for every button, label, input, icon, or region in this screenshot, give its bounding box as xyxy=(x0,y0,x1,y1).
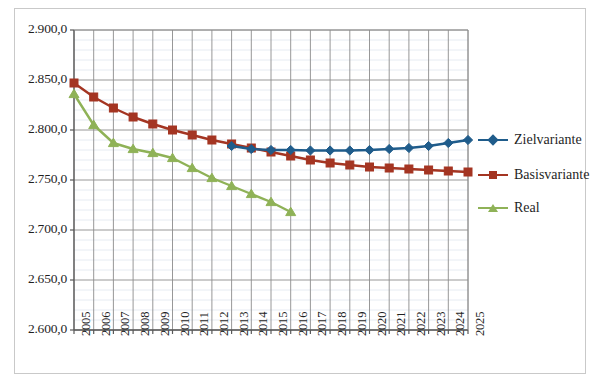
y-axis-tick-label: 2.600,0 xyxy=(5,321,67,337)
x-axis-tick-label: 2011 xyxy=(197,312,212,336)
data-point-basisvariante-2006 xyxy=(90,93,98,101)
legend-item-real[interactable]: Real xyxy=(478,200,540,216)
x-axis-tick-label: 2024 xyxy=(453,312,468,336)
data-point-basisvariante-2022 xyxy=(405,165,413,173)
data-point-basisvariante-2023 xyxy=(425,166,433,174)
legend-swatch-zielvariante xyxy=(478,134,508,146)
data-point-basisvariante-2009 xyxy=(149,120,157,128)
legend-marker-diamond-icon xyxy=(487,134,498,145)
data-point-basisvariante-2010 xyxy=(169,126,177,134)
x-axis-tick-label: 2012 xyxy=(217,312,232,336)
y-axis-tick-label: 2.650,0 xyxy=(5,271,67,287)
data-point-basisvariante-2007 xyxy=(109,104,117,112)
x-axis-tick-label: 2007 xyxy=(118,312,133,336)
legend-item-zielvariante[interactable]: Zielvariante xyxy=(478,132,582,148)
x-axis-tick-label: 2023 xyxy=(434,312,449,336)
legend-marker-square-icon xyxy=(489,171,497,179)
legend-item-basisvariante[interactable]: Basisvariante xyxy=(478,167,589,183)
data-point-basisvariante-2005 xyxy=(70,79,78,87)
x-axis-tick-label: 2021 xyxy=(394,312,409,336)
data-point-basisvariante-2025 xyxy=(464,168,472,176)
x-axis-tick-label: 2014 xyxy=(256,312,271,336)
legend-label: Basisvariante xyxy=(514,167,589,183)
x-axis-tick-label: 2020 xyxy=(375,312,390,336)
x-axis-tick-label: 2025 xyxy=(473,312,488,336)
x-axis-tick-label: 2022 xyxy=(414,312,429,336)
legend-swatch-real xyxy=(478,202,508,214)
x-axis-tick-label: 2016 xyxy=(296,312,311,336)
y-axis-tick-label: 2.700,0 xyxy=(5,221,67,237)
data-point-basisvariante-2019 xyxy=(346,161,354,169)
line-chart: 2.600,02.650,02.700,02.750,02.800,02.850… xyxy=(0,0,601,390)
y-axis-tick-label: 2.850,0 xyxy=(5,71,67,87)
x-axis-tick-label: 2015 xyxy=(276,312,291,336)
x-axis-tick-label: 2006 xyxy=(99,312,114,336)
x-axis-tick-label: 2018 xyxy=(335,312,350,336)
x-axis-tick-label: 2009 xyxy=(158,312,173,336)
y-axis-tick-label: 2.750,0 xyxy=(5,171,67,187)
x-axis-tick-label: 2008 xyxy=(138,312,153,336)
legend-label: Zielvariante xyxy=(514,132,582,148)
x-axis-tick-label: 2005 xyxy=(79,312,94,336)
legend-label: Real xyxy=(514,200,540,216)
data-point-basisvariante-2017 xyxy=(306,156,314,164)
data-point-basisvariante-2024 xyxy=(444,167,452,175)
data-point-basisvariante-2021 xyxy=(385,164,393,172)
data-point-basisvariante-2012 xyxy=(208,136,216,144)
y-axis-tick-label: 2.800,0 xyxy=(5,121,67,137)
y-axis-tick-label: 2.900,0 xyxy=(5,21,67,37)
data-point-basisvariante-2018 xyxy=(326,159,334,167)
data-point-basisvariante-2020 xyxy=(366,163,374,171)
data-point-basisvariante-2011 xyxy=(188,131,196,139)
legend-marker-triangle-icon xyxy=(488,204,498,212)
x-axis-tick-label: 2010 xyxy=(178,312,193,336)
legend-swatch-basisvariante xyxy=(478,169,508,181)
x-axis-tick-label: 2019 xyxy=(355,312,370,336)
data-point-basisvariante-2008 xyxy=(129,113,137,121)
x-axis-tick-label: 2013 xyxy=(237,312,252,336)
x-axis-tick-label: 2017 xyxy=(315,312,330,336)
